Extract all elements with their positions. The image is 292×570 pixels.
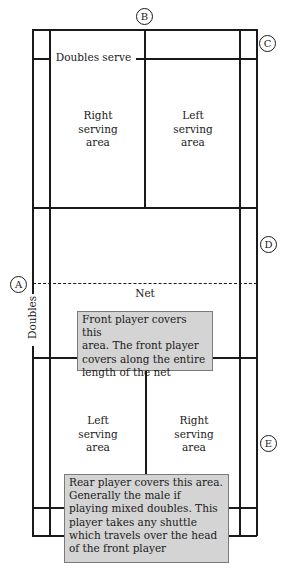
marker-b: B <box>136 8 153 25</box>
top-doubles-serve-line-left <box>32 58 50 60</box>
bottom-left-serving-area-label: Left serving area <box>60 414 136 455</box>
top-left-serving-area-label: Left serving area <box>155 109 231 150</box>
net-line <box>33 283 257 284</box>
court-outer-left-sideline-top <box>32 29 34 294</box>
bottom-right-serving-area-label: Right serving area <box>156 414 232 455</box>
top-doubles-serve-line-right <box>136 58 257 60</box>
net-label: Net <box>130 287 160 300</box>
top-right-serving-area-label: Right serving area <box>60 109 136 150</box>
marker-d: D <box>260 236 277 253</box>
marker-e: E <box>260 435 277 452</box>
doubles-sideline-label: Doubles <box>26 297 38 341</box>
doubles-serve-label: Doubles serve <box>51 51 136 64</box>
top-short-service-line <box>32 207 257 209</box>
rear-player-note: Rear player covers this area. Generally … <box>64 474 229 563</box>
top-center-line <box>144 29 146 208</box>
front-player-note: Front player covers this area. The front… <box>77 311 213 371</box>
marker-a: A <box>10 276 27 293</box>
marker-c: C <box>259 35 276 52</box>
